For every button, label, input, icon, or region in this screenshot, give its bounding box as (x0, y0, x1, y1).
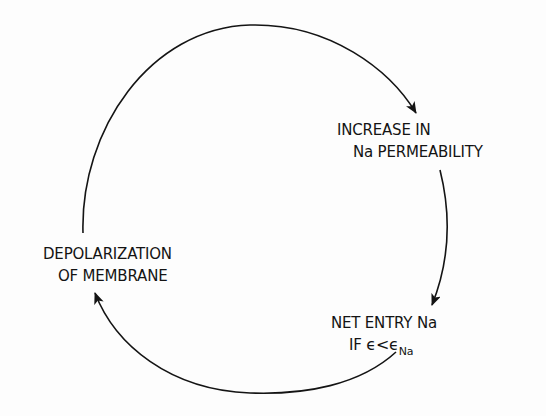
node-line: Na PERMEABILITY (337, 141, 483, 163)
node-line: INCREASE IN (337, 119, 483, 141)
less-than-symbol: < (376, 335, 389, 354)
epsilon-symbol: ϵ (366, 335, 376, 354)
node-line: NET ENTRY Na (331, 312, 437, 334)
subscript-na: Na (399, 345, 413, 358)
condition-prefix: IF (349, 336, 362, 354)
node-increase-na-permeability: INCREASE IN Na PERMEABILITY (337, 119, 483, 163)
arrow-icon (432, 170, 447, 305)
epsilon-symbol: ϵ (389, 335, 399, 354)
node-net-entry-na: NET ENTRY Na IF ϵ<ϵNa (331, 312, 437, 358)
node-line: DEPOLARIZATION (43, 243, 172, 265)
cycle-arrows (0, 0, 546, 416)
node-depolarization-of-membrane: DEPOLARIZATION OF MEMBRANE (43, 243, 172, 287)
node-line: OF MEMBRANE (43, 265, 172, 287)
condition-line: IF ϵ<ϵNa (331, 334, 437, 358)
feedback-cycle-diagram: INCREASE IN Na PERMEABILITY NET ENTRY Na… (0, 0, 546, 416)
